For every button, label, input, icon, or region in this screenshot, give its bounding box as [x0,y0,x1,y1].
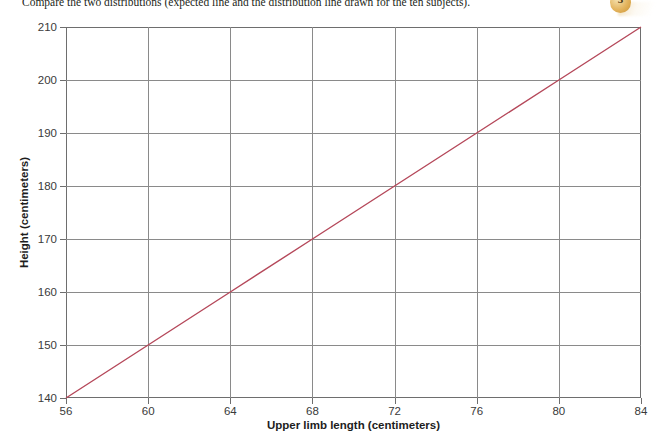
y-axis-tick-mark [60,239,66,240]
x-axis-title: Upper limb length (centimeters) [66,419,641,431]
x-axis-tick-mark [230,398,231,404]
chart-figure: 140150160170180190200210 566064687276808… [0,0,669,443]
grid-line-horizontal [66,239,641,240]
y-axis-tick-mark [60,80,66,81]
x-axis-tick-mark [148,398,149,404]
grid-line-vertical [477,27,478,398]
grid-line-horizontal [66,133,641,134]
grid-line-vertical [312,27,313,398]
grid-line-horizontal [66,80,641,81]
x-axis-tick-mark [395,398,396,404]
x-axis-tick-label: 76 [457,405,497,417]
grid-line-vertical [230,27,231,398]
y-axis-tick-mark [60,186,66,187]
y-axis-title: Height (centimeters) [18,27,34,398]
grid-line-vertical [559,27,560,398]
grid-line-vertical [395,27,396,398]
x-axis-tick-label: 56 [46,405,86,417]
grid-line-horizontal [66,292,641,293]
x-axis-tick-label: 68 [292,405,332,417]
x-axis-tick-label: 60 [128,405,168,417]
grid-line-vertical [148,27,149,398]
plot-area [66,27,641,398]
x-axis-tick-mark [641,398,642,404]
x-axis-tick-mark [559,398,560,404]
grid-line-horizontal [66,345,641,346]
grid-line-horizontal [66,186,641,187]
y-axis-tick-mark [60,27,66,28]
x-axis-tick-mark [312,398,313,404]
y-axis-tick-mark [60,292,66,293]
x-axis-tick-label: 80 [539,405,579,417]
x-axis-tick-label: 64 [210,405,250,417]
y-axis-tick-mark [60,345,66,346]
x-axis-tick-label: 84 [621,405,661,417]
x-axis-tick-mark [66,398,67,404]
y-axis-tick-mark [60,133,66,134]
x-axis-tick-mark [477,398,478,404]
x-axis-tick-label: 72 [375,405,415,417]
